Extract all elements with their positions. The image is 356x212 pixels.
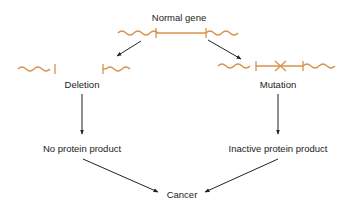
arrows (82, 40, 278, 192)
deletion-label: Deletion (65, 80, 100, 90)
normal-gene-label: Normal gene (152, 13, 206, 23)
arrow-normal-to-mutation (208, 40, 241, 59)
mutation-wavy-left (218, 64, 250, 68)
diagram-canvas (0, 0, 356, 212)
cancer-label: Cancer (167, 190, 198, 200)
arrow-inactive-to-cancer (205, 159, 278, 192)
deletion-gene-graphic (18, 64, 130, 74)
mutation-wavy-right (303, 64, 335, 68)
deletion-wavy-left (18, 67, 50, 71)
mutation-gene-graphic (218, 61, 335, 71)
no-protein-product-label: No protein product (43, 144, 121, 154)
inactive-protein-product-label: Inactive protein product (229, 144, 328, 154)
gene-wavy-left (118, 31, 158, 35)
gene-wavy-right (206, 31, 238, 35)
normal-gene-graphic (118, 28, 238, 38)
arrow-no-protein-to-cancer (83, 159, 158, 192)
mutation-label: Mutation (260, 80, 296, 90)
deletion-wavy-right (106, 67, 130, 71)
arrow-normal-to-deletion (117, 41, 141, 56)
